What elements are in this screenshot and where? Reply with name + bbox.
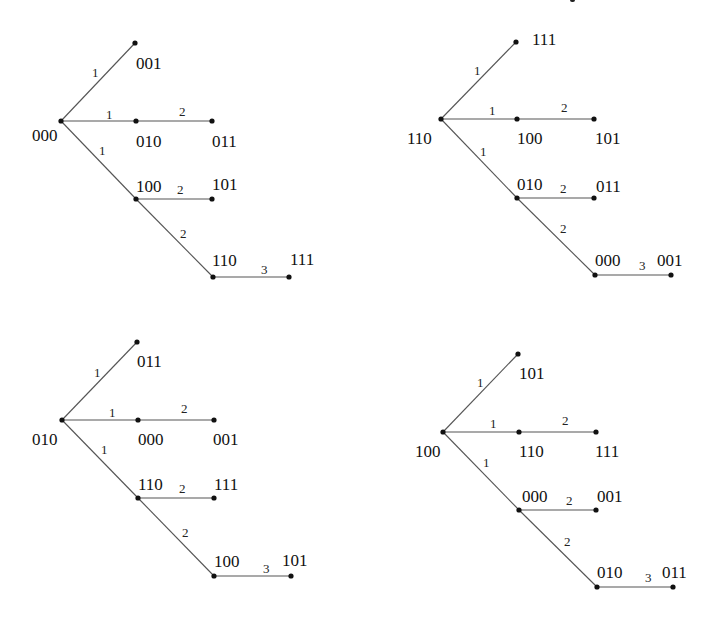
node-label: 101 — [595, 130, 621, 147]
edge-step-label: 2 — [182, 526, 189, 539]
node-label: 000 — [522, 488, 548, 505]
edge-step-label: 1 — [474, 64, 481, 77]
edge-step-label: 1 — [477, 376, 484, 389]
node-label: 100 — [517, 130, 543, 147]
edge-step-label: 1 — [490, 417, 497, 430]
node-label: 001 — [597, 488, 623, 505]
edge-step-label: 2 — [560, 182, 567, 195]
edge-step-label: 2 — [560, 222, 567, 235]
node-dot — [134, 339, 139, 344]
node-label: 100 — [214, 553, 240, 570]
node-dot — [132, 40, 137, 45]
node-dot — [594, 584, 599, 589]
edge-step-label: 2 — [564, 535, 571, 548]
root-node-dot — [59, 417, 64, 422]
node-label: 011 — [137, 353, 162, 370]
node-dot — [670, 584, 675, 589]
edge-step-label: 2 — [179, 482, 186, 495]
edge-step-label: 2 — [562, 414, 569, 427]
root-node-label: 100 — [415, 443, 441, 460]
node-label: 110 — [212, 252, 237, 269]
node-dot — [209, 118, 214, 123]
node-label: 010 — [597, 564, 623, 581]
node-dot — [288, 573, 293, 578]
node-label: 010 — [517, 176, 543, 193]
edge-step-label: 1 — [483, 456, 490, 469]
edge-step-label: 2 — [180, 227, 187, 240]
node-dot — [211, 417, 216, 422]
node-label: 100 — [136, 178, 162, 195]
root-node-dot — [58, 118, 63, 123]
node-dot — [516, 429, 521, 434]
node-dot — [209, 196, 214, 201]
edge-step-label: 1 — [480, 145, 487, 158]
tree-edge — [62, 342, 137, 420]
node-label: 011 — [212, 133, 237, 150]
node-label: 011 — [596, 178, 621, 195]
node-dot — [210, 274, 215, 279]
node-label: 011 — [662, 564, 687, 581]
node-dot — [593, 507, 598, 512]
edge-step-label: 3 — [645, 571, 652, 584]
node-dot — [514, 195, 519, 200]
node-dot — [514, 116, 519, 121]
node-dot — [286, 274, 291, 279]
node-label: 001 — [136, 55, 162, 72]
node-dot — [513, 39, 518, 44]
tree-edge — [62, 420, 138, 498]
root-node-label: 110 — [407, 130, 432, 147]
node-label: 111 — [532, 31, 556, 48]
node-label: 111 — [214, 476, 238, 493]
node-dot — [135, 417, 140, 422]
edge-step-label: 1 — [489, 104, 496, 117]
tree-edge — [61, 121, 136, 199]
node-label: 101 — [282, 552, 308, 569]
edge-step-label: 3 — [263, 562, 270, 575]
node-dot — [591, 195, 596, 200]
tree-edge — [61, 43, 135, 121]
tree-edge — [138, 498, 214, 576]
edge-step-label: 1 — [101, 443, 108, 456]
node-dot — [135, 495, 140, 500]
edge-step-label: 1 — [109, 406, 116, 419]
tree-edge — [443, 432, 519, 510]
tree-edge — [517, 198, 595, 275]
node-label: 010 — [136, 133, 162, 150]
node-dot — [133, 196, 138, 201]
edge-step-label: 1 — [94, 366, 101, 379]
edge-step-label: 3 — [261, 263, 268, 276]
edge-step-label: 1 — [99, 144, 106, 157]
node-label: 110 — [519, 443, 544, 460]
tree-edge — [136, 199, 213, 277]
edge-step-label: 2 — [177, 183, 184, 196]
root-node-label: 000 — [32, 127, 58, 144]
node-dot — [591, 116, 596, 121]
tree-edge — [443, 354, 518, 432]
node-dot — [515, 351, 520, 356]
edge-step-label: 1 — [106, 108, 113, 121]
root-node-dot — [438, 116, 443, 121]
tree-edge — [519, 510, 597, 587]
node-label: 111 — [290, 251, 314, 268]
node-dot — [593, 429, 598, 434]
edge-step-label: 2 — [561, 101, 568, 114]
spanning-trees-diagram — [0, 0, 724, 617]
edge-step-label: 2 — [179, 105, 186, 118]
node-dot — [211, 495, 216, 500]
root-node-label: 010 — [32, 431, 58, 448]
node-dot — [516, 507, 521, 512]
node-label: 110 — [138, 476, 163, 493]
node-dot — [211, 573, 216, 578]
node-label: 000 — [595, 252, 621, 269]
node-label: 001 — [213, 431, 239, 448]
node-dot — [592, 272, 597, 277]
edge-step-label: 1 — [92, 66, 99, 79]
node-label: 000 — [138, 431, 164, 448]
node-label: 111 — [595, 443, 619, 460]
edge-step-label: 3 — [639, 259, 646, 272]
edge-step-label: 2 — [566, 494, 573, 507]
edge-step-label: 2 — [181, 402, 188, 415]
nodes-layer — [58, 39, 675, 589]
tree-edge — [441, 119, 517, 198]
edges-layer — [61, 42, 673, 587]
